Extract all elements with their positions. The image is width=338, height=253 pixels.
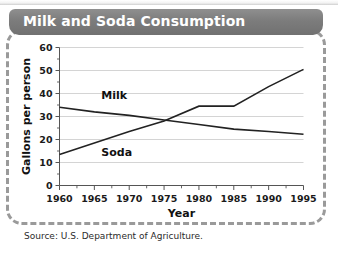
x-tick-label-1985: 1985: [221, 193, 247, 204]
x-tick-label-1960: 1960: [46, 193, 73, 204]
x-tick-label-1995: 1995: [290, 193, 316, 204]
series-label-group: MilkSoda: [101, 89, 132, 158]
x-tick-label-1965: 1965: [81, 193, 107, 204]
series-label-soda: Soda: [101, 146, 132, 159]
x-tick-group: 19601965197019751980198519901995: [46, 186, 316, 204]
x-tick-label-1980: 1980: [186, 193, 213, 204]
y-tick-label-10: 10: [39, 157, 53, 168]
x-axis-title: Year: [167, 207, 196, 220]
y-tick-label-30: 30: [39, 111, 53, 122]
series-label-milk: Milk: [101, 89, 127, 102]
y-tick-label-0: 0: [46, 180, 53, 191]
y-tick-group: 0102030405060: [39, 42, 59, 191]
x-tick-label-1990: 1990: [255, 193, 282, 204]
y-tick-label-50: 50: [39, 65, 53, 76]
y-tick-label-20: 20: [39, 134, 53, 145]
source-note: Source: U.S. Department of Agriculture.: [24, 231, 203, 241]
y-tick-label-40: 40: [39, 88, 53, 99]
gridlines-group: [60, 48, 304, 186]
series-group: [60, 69, 304, 154]
y-tick-label-60: 60: [39, 42, 53, 53]
y-axis-title: Gallons per person: [20, 58, 33, 175]
chart-svg: 0102030405060 19601965197019751980198519…: [0, 0, 338, 253]
series-line-milk: [60, 107, 304, 134]
x-tick-label-1970: 1970: [116, 193, 143, 204]
chart-figure: Milk and Soda Consumption 0102030405060 …: [0, 0, 338, 253]
plot-area: 0102030405060 19601965197019751980198519…: [0, 0, 338, 253]
x-tick-label-1975: 1975: [151, 193, 177, 204]
